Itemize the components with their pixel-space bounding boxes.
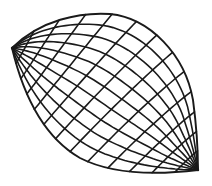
grid-meridian-line — [12, 24, 198, 170]
left-pole-point — [11, 47, 13, 49]
diagram-canvas — [0, 0, 212, 186]
grid-cross-line — [21, 20, 59, 79]
grid-lines — [12, 14, 198, 173]
grid-cross-line — [70, 52, 172, 151]
curvilinear-grid-drawing — [0, 0, 212, 186]
right-pole-point — [197, 169, 199, 171]
grid-cross-line — [34, 14, 112, 109]
grid-cross-line — [44, 22, 137, 125]
